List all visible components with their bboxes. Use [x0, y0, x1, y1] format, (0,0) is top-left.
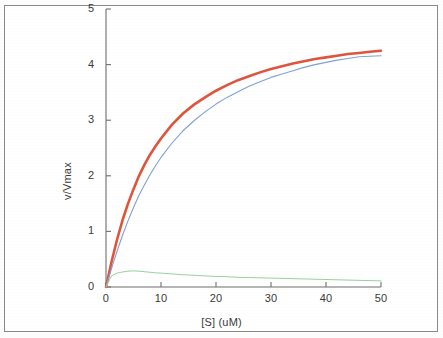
x-tick-label-5: 50 — [372, 292, 390, 304]
x-axis-title: [S] (uM) — [0, 316, 443, 328]
axes — [106, 9, 381, 287]
y-tick-label-2: 2 — [88, 169, 94, 181]
x-tick-label-4: 40 — [317, 292, 335, 304]
y-axis-title: v/Vmax — [61, 162, 73, 200]
y-tick-label-5: 5 — [88, 2, 94, 14]
chart-figure: 0 1 2 3 4 5 0 10 20 30 40 50 v/Vmax [S] … — [0, 0, 443, 338]
series-path-blue-curve — [106, 56, 381, 287]
y-axis-title-wrap: v/Vmax — [47, 112, 63, 202]
data-series — [106, 51, 381, 287]
x-tick-label-1: 10 — [152, 292, 170, 304]
x-tick-label-0: 0 — [97, 292, 115, 304]
y-tick-label-3: 3 — [88, 113, 94, 125]
x-tick-label-2: 20 — [207, 292, 225, 304]
y-tick-label-4: 4 — [88, 58, 94, 70]
x-tick-label-3: 30 — [262, 292, 280, 304]
y-tick-label-0: 0 — [88, 280, 94, 292]
series-path-green-curve — [106, 271, 381, 287]
series-path-red-curve — [106, 51, 381, 287]
y-tick-label-1: 1 — [88, 224, 94, 236]
